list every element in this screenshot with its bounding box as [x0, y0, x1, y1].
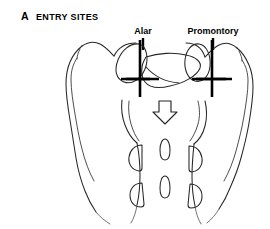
- label-promontory: Promontory: [187, 26, 238, 36]
- sacrum-entry-sites-illustration: A ENTRY SITES Alar Promontory: [0, 0, 270, 229]
- figure-panel-a: A ENTRY SITES Alar Promontory: [0, 0, 270, 229]
- page-title: ENTRY SITES: [36, 12, 98, 22]
- panel-letter: A: [21, 10, 29, 22]
- label-alar: Alar: [134, 26, 152, 36]
